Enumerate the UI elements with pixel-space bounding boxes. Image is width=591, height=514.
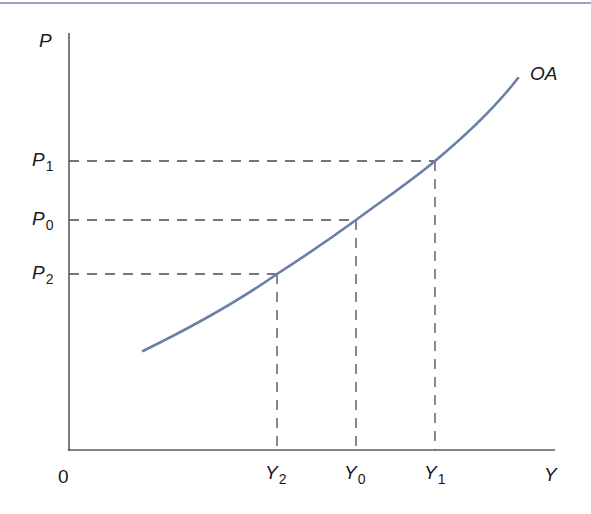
curve-label-oa: OA: [530, 64, 557, 83]
x-axis-label: Y: [544, 465, 557, 484]
price-label-p0: P0: [32, 209, 53, 232]
output-label-y2: Y2: [265, 463, 286, 486]
price-label-p1: P1: [32, 150, 53, 173]
y-axis-label: P: [39, 31, 52, 50]
oa-curve: [143, 78, 518, 351]
price-label-p2: P2: [32, 263, 53, 286]
oa-curve-diagram: [0, 0, 591, 514]
origin-label: 0: [58, 467, 69, 486]
output-label-y1: Y1: [424, 463, 445, 486]
output-label-y0: Y0: [344, 463, 365, 486]
